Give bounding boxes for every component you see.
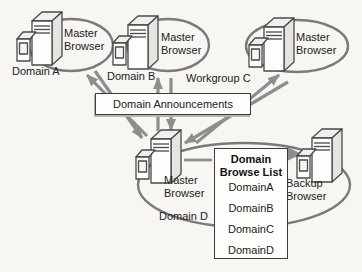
browse-list-item: DomainA (215, 181, 287, 193)
domain-d-master-browser-label: Master Browser (164, 174, 216, 199)
domain-browse-list-box: Domain Browse List DomainA DomainB Domai… (214, 148, 288, 259)
backup-browser-label: Backup Browser (286, 177, 338, 202)
browse-list-item: DomainB (215, 202, 287, 214)
browse-list-item: DomainD (215, 244, 287, 256)
computer-icon-backup-browser (297, 129, 342, 182)
computer-icon-workgroup-c (249, 18, 294, 71)
domain-browse-list-title: Domain Browse List (217, 153, 285, 178)
workgroup-c-master-browser-label: Master Browser (296, 31, 348, 56)
domain-a-master-browser-label: Master Browser (64, 27, 116, 52)
computer-icon-domain-a (17, 12, 62, 65)
computer-icon-domain-b (113, 16, 158, 69)
browser-announcement-diagram: Master Browser Domain A Master Browser D… (0, 0, 362, 272)
domain-a-label: Domain A (12, 65, 60, 78)
domain-b-master-browser-label: Master Browser (161, 31, 213, 56)
workgroup-c-label: Workgroup C (186, 72, 251, 85)
domain-d-label: Domain D (159, 210, 208, 223)
browse-list-item: DomainC (215, 223, 287, 235)
domain-announcements-label: Domain Announcements (113, 98, 233, 110)
domain-announcements-box: Domain Announcements (95, 93, 251, 115)
domain-b-label: Domain B (107, 70, 155, 83)
